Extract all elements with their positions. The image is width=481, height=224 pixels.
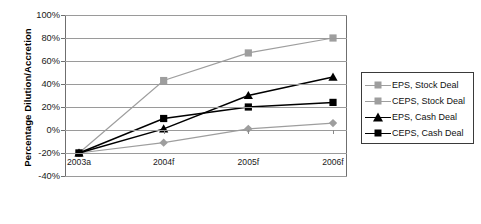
legend-marker-triangle-icon [365, 110, 391, 124]
legend-marker-glyph [373, 113, 383, 122]
legend-marker-glyph [375, 98, 382, 105]
y-axis-tick-mark [61, 38, 65, 39]
y-axis-tick-label: 60% [20, 56, 60, 66]
y-axis-tick-mark [61, 176, 65, 177]
gridline [65, 176, 347, 177]
legend-label: CEPS, Cash Deal [391, 128, 464, 138]
gridline [65, 107, 347, 108]
series-layer [65, 15, 347, 176]
y-axis-tick-mark [61, 107, 65, 108]
y-axis-tick-mark [61, 15, 65, 16]
x-axis-tick-label: 2005f [238, 157, 260, 167]
gridline [65, 84, 347, 85]
gridline [65, 153, 347, 154]
data-point-marker [160, 115, 167, 122]
y-axis-tick-mark [61, 84, 65, 85]
x-axis-tick-mark [333, 130, 334, 134]
gridline [65, 61, 347, 62]
y-axis-tick-label: 40% [20, 79, 60, 89]
data-point-marker [328, 73, 337, 81]
y-axis-tick-mark [61, 153, 65, 154]
series-line [79, 77, 333, 153]
y-axis-tick-mark [61, 61, 65, 62]
series-3 [74, 73, 337, 157]
gridline [65, 15, 347, 16]
gridline [65, 130, 347, 131]
x-axis-tick-mark [248, 130, 249, 134]
x-axis-tick-label: 2006f [322, 157, 344, 167]
gridline [65, 38, 347, 39]
y-axis-tick-mark [61, 130, 65, 131]
legend-item-1[interactable]: EPS, Stock Deal [365, 77, 470, 93]
y-axis-tick-labels: 100%80%60%40%20%0%-20%-40% [18, 0, 60, 224]
y-axis-tick-label: -20% [20, 148, 60, 158]
y-axis-tick-label: 0% [20, 125, 60, 135]
legend-item-2[interactable]: CEPS, Stock Deal [365, 93, 470, 109]
legend-marker-square-icon [365, 94, 391, 108]
data-point-marker [329, 99, 336, 106]
legend-item-3[interactable]: EPS, Cash Deal [365, 109, 470, 125]
y-axis-tick-label: 20% [20, 102, 60, 112]
y-axis-tick-label: -40% [20, 171, 60, 181]
legend-label: CEPS, Stock Deal [391, 96, 465, 106]
chart-legend: EPS, Stock DealCEPS, Stock DealEPS, Cash… [361, 72, 474, 144]
legend-label: EPS, Cash Deal [391, 112, 457, 122]
legend-marker-diamond-icon [365, 78, 391, 92]
legend-marker-square-icon [365, 126, 391, 140]
plot-area [65, 15, 347, 176]
x-axis-tick-label: 2003a [67, 157, 91, 167]
legend-label: EPS, Stock Deal [391, 80, 459, 90]
series-line [79, 102, 333, 153]
legend-marker-glyph [375, 82, 382, 89]
data-point-marker [159, 138, 167, 146]
x-axis-tick-label: 2004f [153, 157, 175, 167]
legend-marker-glyph [375, 130, 382, 137]
data-point-marker [329, 119, 337, 127]
chart-container: Percentage Dilution/Accretion 100%80%60%… [0, 0, 481, 224]
data-point-marker [245, 49, 252, 56]
x-axis-tick-mark [164, 130, 165, 134]
y-axis-tick-label: 80% [20, 33, 60, 43]
y-axis-tick-label: 100% [20, 10, 60, 20]
legend-item-4[interactable]: CEPS, Cash Deal [365, 125, 470, 141]
